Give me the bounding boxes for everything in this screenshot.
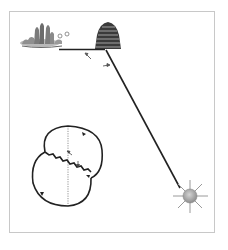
angle-arrow-icon <box>85 53 110 67</box>
hive-to-sun-line <box>106 50 180 188</box>
flower-patch-icon <box>20 23 69 48</box>
direction-arrow-icon <box>40 132 90 196</box>
waggle-dance-diagram <box>0 0 228 250</box>
sun-icon <box>173 180 208 213</box>
beehive-icon <box>95 22 121 49</box>
dance-angle-arrow-icon <box>67 151 80 167</box>
